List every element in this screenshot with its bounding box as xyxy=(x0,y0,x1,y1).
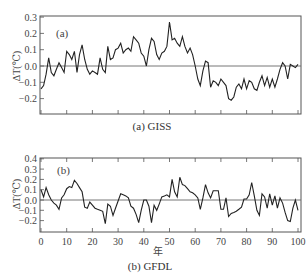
x-tick-label: 70 xyxy=(216,236,226,247)
y-tick-label: −0.2 xyxy=(19,93,37,104)
x-tick-label: 20 xyxy=(87,236,97,247)
x-ticks-a xyxy=(41,110,298,114)
y-tick-label: 0.2 xyxy=(25,28,38,39)
panel-gfdl: 0.40.30.20.10.0−0.1−0.2 0102030405060708… xyxy=(11,153,306,273)
x-axis-label-b: 年 xyxy=(153,245,163,257)
x-tick-label: 50 xyxy=(165,236,175,247)
series-line-giss xyxy=(41,22,298,100)
y-axis-label-b: ΔT(℃) xyxy=(11,179,23,209)
caption-b: (b) GFDL xyxy=(128,260,173,273)
y-tick-label: 0.3 xyxy=(25,12,38,23)
x-tick-label: 100 xyxy=(291,236,306,247)
x-tick-label: 80 xyxy=(242,236,252,247)
x-tick-label: 40 xyxy=(139,236,149,247)
series-line-gfdl xyxy=(41,177,298,223)
panel-label-b: (b) xyxy=(57,164,70,177)
x-tick-label: 60 xyxy=(190,236,200,247)
panel-label-a: (a) xyxy=(56,27,69,40)
y-tick-label: 0.0 xyxy=(25,61,38,72)
y-axis-label-a: ΔT(℃) xyxy=(11,51,23,81)
panel-giss: 0.30.20.10.0−0.1−0.2 (a) ΔT(℃) (a) GISS xyxy=(11,12,301,133)
y-tick-label: −0.2 xyxy=(19,215,37,226)
y-tick-label: 0.1 xyxy=(25,44,38,55)
caption-a: (a) GISS xyxy=(133,120,172,133)
x-tick-label: 90 xyxy=(267,236,277,247)
x-tick-label: 0 xyxy=(39,236,44,247)
x-tick-label: 10 xyxy=(62,236,72,247)
x-tick-label: 30 xyxy=(113,236,123,247)
chart-figure: 0.30.20.10.0−0.1−0.2 (a) ΔT(℃) (a) GISS … xyxy=(0,0,308,277)
